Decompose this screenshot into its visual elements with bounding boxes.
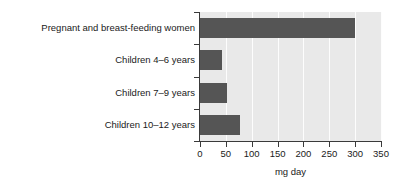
y-axis-tick	[194, 77, 200, 78]
category-label: Children 7–9 years	[115, 87, 195, 98]
bar	[200, 83, 227, 103]
x-axis-tick	[226, 142, 227, 147]
bar-chart-figure: mg day Pregnant and breast-feeding women…	[0, 0, 403, 188]
x-axis-title: mg day	[200, 166, 381, 177]
gridline	[355, 12, 356, 141]
y-axis-tick	[194, 12, 200, 13]
y-axis-tick	[194, 109, 200, 110]
x-axis-tick	[200, 142, 201, 147]
x-axis-tick	[303, 142, 304, 147]
y-axis-tick	[194, 44, 200, 45]
bar	[200, 18, 355, 38]
category-label: Pregnant and breast-feeding women	[41, 22, 195, 33]
x-axis-tick	[329, 142, 330, 147]
x-axis-tick	[355, 142, 356, 147]
x-axis-tick	[252, 142, 253, 147]
plot-panel	[200, 12, 381, 141]
x-axis-tick	[278, 142, 279, 147]
category-label: Children 10–12 years	[105, 119, 195, 130]
gridline	[381, 12, 382, 141]
bar	[200, 115, 240, 135]
bar	[200, 50, 222, 70]
category-label: Children 4–6 years	[115, 54, 195, 65]
x-axis-tick-label: 350	[366, 148, 396, 159]
x-axis-tick	[381, 142, 382, 147]
